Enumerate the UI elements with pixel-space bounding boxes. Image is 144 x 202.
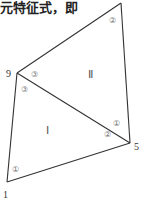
node-label-9: 9 — [6, 68, 11, 79]
region-label-II: Ⅱ — [88, 68, 93, 80]
corner-label-I-at-5: ② — [104, 130, 111, 139]
corner-label-II-at-9: ③ — [31, 70, 38, 79]
region-label-I: Ⅰ — [46, 124, 49, 136]
corner-label-II-top: ② — [109, 16, 116, 25]
corner-label-I-at-1: ① — [12, 165, 19, 174]
edge-1-5 — [7, 143, 130, 182]
edge-9-5 — [17, 73, 130, 143]
finite-element-mesh-diagram: 9 5 1 Ⅰ Ⅱ ② ③ ① ③ ② ① — [0, 0, 144, 202]
edge-top-5 — [121, 3, 130, 143]
corner-label-II-at-5: ① — [113, 119, 120, 128]
node-label-5: 5 — [134, 141, 139, 152]
corner-label-I-at-9: ③ — [21, 85, 28, 94]
edge-top-9 — [17, 3, 121, 73]
node-label-1: 1 — [3, 189, 8, 200]
